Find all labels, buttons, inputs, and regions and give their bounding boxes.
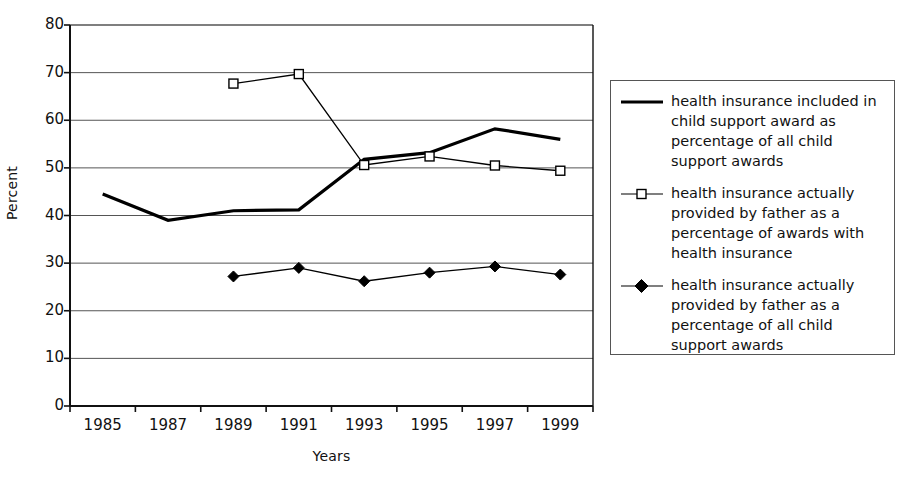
data-point-marker: [228, 271, 239, 282]
y-tick-label: 50: [30, 160, 64, 175]
x-tick-label: 1995: [395, 418, 465, 433]
y-tick-label: 0: [30, 398, 64, 413]
data-point-marker: [293, 262, 304, 273]
series-2: [228, 261, 566, 287]
legend-swatch-plain-line: [619, 92, 665, 112]
legend-item-provided-of-all-awards: health insurance actually provided by fa…: [619, 275, 886, 355]
x-tick-label: 1997: [460, 418, 530, 433]
legend-item-awards-included: health insurance included in child suppo…: [619, 91, 886, 171]
x-tick-label: 1985: [68, 418, 138, 433]
y-tick-label: 80: [30, 17, 64, 32]
line-chart: Percent Years 80706050403020100198519871…: [0, 0, 912, 479]
x-tick-label: 1989: [198, 418, 268, 433]
y-tick-label: 10: [30, 350, 64, 365]
x-tick-label: 1991: [264, 418, 334, 433]
y-tick-label: 70: [30, 65, 64, 80]
legend-item-provided-of-awards-with-insurance: health insurance actually provided by fa…: [619, 183, 886, 263]
x-axis-title: Years: [70, 448, 593, 464]
series-line-2: [233, 266, 560, 281]
data-point-marker: [294, 70, 303, 79]
data-point-marker: [359, 276, 370, 287]
data-point-marker: [229, 79, 238, 88]
y-tick-label: 20: [30, 303, 64, 318]
legend-label-awards-included: health insurance included in child suppo…: [671, 91, 886, 171]
data-point-marker: [360, 161, 369, 170]
gridlines: [70, 25, 593, 406]
data-point-marker: [490, 161, 499, 170]
y-tick-label: 40: [30, 208, 64, 223]
data-point-marker: [425, 152, 434, 161]
x-tick-label: 1987: [133, 418, 203, 433]
data-point-marker: [489, 261, 500, 272]
y-axis-title: Percent: [4, 153, 20, 233]
data-point-marker: [555, 269, 566, 280]
x-tick-label: 1993: [329, 418, 399, 433]
y-tick-label: 30: [30, 255, 64, 270]
legend-swatch-open-square-line: [619, 184, 665, 204]
legend-label-provided-of-awards-with-insurance: health insurance actually provided by fa…: [671, 183, 886, 263]
legend-swatch-filled-diamond-line: [619, 276, 665, 296]
chart-legend: health insurance included in child suppo…: [610, 80, 895, 355]
x-tick-label: 1999: [525, 418, 595, 433]
legend-label-provided-of-all-awards: health insurance actually provided by fa…: [671, 275, 886, 355]
series-1: [229, 70, 565, 176]
y-tick-label: 60: [30, 112, 64, 127]
data-point-marker: [424, 267, 435, 278]
data-point-marker: [556, 166, 565, 175]
series-0: [103, 129, 561, 220]
series-line-0: [103, 129, 561, 220]
